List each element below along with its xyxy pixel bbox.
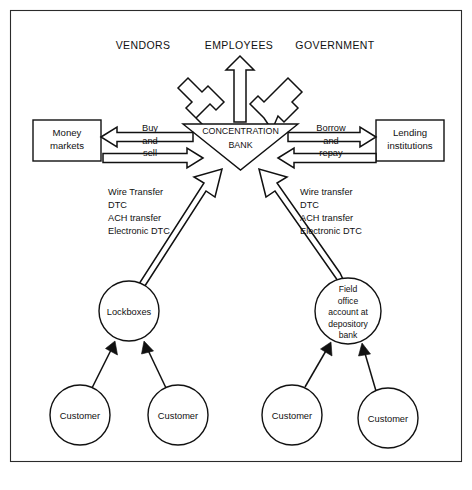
right-transfer-methods: Wire transfer DTC ACH transfer Electroni… [300, 187, 362, 236]
money-markets-line1: Money [53, 127, 82, 138]
right-transfer-line-2: DTC [300, 200, 319, 210]
left-transfer-line-3: ACH transfer [108, 213, 161, 223]
field-office-line-5: bank [339, 330, 358, 340]
left-transfer-methods: Wire Transfer DTC ACH transfer Electroni… [108, 187, 170, 236]
right-transfer-line-1: Wire transfer [300, 187, 353, 197]
arrow-to-vendors [178, 78, 224, 130]
field-office-line-2: office [338, 296, 359, 306]
customer-1-label: Customer [60, 411, 100, 421]
left-transfer-line-1: Wire Transfer [108, 187, 163, 197]
money-markets-line2: markets [50, 140, 84, 151]
field-office-line-1: Field [339, 284, 358, 294]
buy-label: Buy [142, 123, 158, 133]
customer-2-label: Customer [158, 411, 198, 421]
arrow-customer2-to-lockboxes [142, 341, 167, 388]
arrow-customer3-to-field-office [305, 342, 332, 387]
label-vendors: VENDORS [116, 39, 171, 51]
right-transfer-line-4: Electronic DTC [300, 226, 362, 236]
concentration-bank-line1: CONCENTRATION [202, 126, 279, 136]
customer-3-label: Customer [272, 411, 312, 421]
field-office-line-3: account at [328, 307, 368, 317]
and-label-right: and [323, 136, 339, 146]
arrow-customer4-to-field-office [359, 343, 377, 391]
lockboxes-label: Lockboxes [107, 307, 152, 317]
sell-label: sell [143, 148, 157, 158]
concentration-bank-diagram: VENDORS EMPLOYEES GOVERNMENT CONCENTRATI… [0, 0, 472, 490]
label-employees: EMPLOYEES [205, 39, 273, 51]
left-transfer-line-2: DTC [108, 200, 127, 210]
concentration-bank-line2: BANK [228, 140, 252, 150]
customer-4-label: Customer [368, 414, 408, 424]
field-office-line-4: depository [328, 319, 368, 329]
and-label-left: and [142, 136, 158, 146]
label-government: GOVERNMENT [295, 39, 374, 51]
borrow-label: Borrow [316, 123, 346, 133]
arrow-customer1-to-lockboxes [92, 341, 118, 388]
lending-institutions-line2: institutions [387, 140, 433, 151]
arrow-to-employees [226, 56, 254, 122]
right-transfer-line-3: ACH transfer [300, 213, 353, 223]
diagram-canvas: VENDORS EMPLOYEES GOVERNMENT CONCENTRATI… [0, 0, 472, 490]
left-transfer-line-4: Electronic DTC [108, 226, 170, 236]
repay-label: repay [319, 148, 343, 158]
lending-institutions-line1: Lending [393, 127, 427, 138]
arrow-to-government [250, 78, 302, 130]
